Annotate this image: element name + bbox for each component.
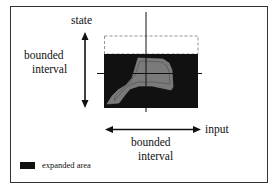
dashed-bound-box — [105, 36, 199, 54]
horizontal-interval-label-line2: interval — [138, 151, 173, 163]
horizontal-double-arrow-icon — [105, 126, 201, 133]
vertical-double-arrow-icon — [82, 32, 89, 108]
vertical-interval-label-line1: bounded — [24, 50, 64, 62]
legend-label-expanded-area: expanded area — [42, 161, 91, 170]
state-axis-label: state — [71, 15, 92, 27]
vertical-interval-label-line2: interval — [32, 64, 67, 76]
legend-swatch-expanded-area — [20, 162, 35, 169]
input-axis-label: input — [205, 124, 229, 136]
horizontal-interval-label-line1: bounded — [131, 137, 171, 149]
